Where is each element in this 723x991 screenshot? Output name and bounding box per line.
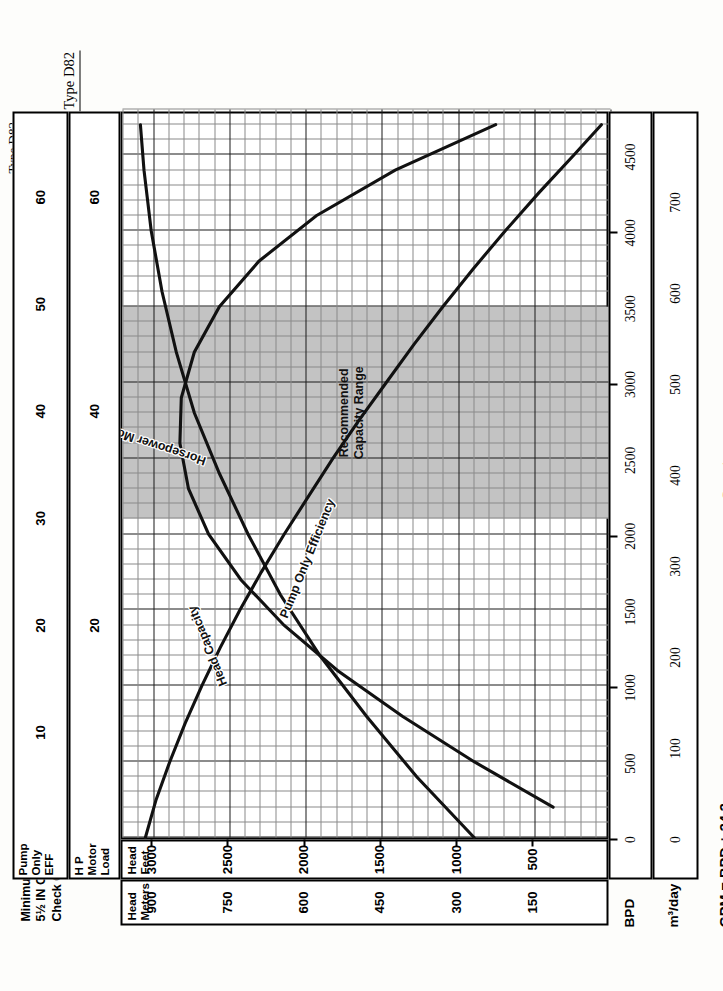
hp-motor-load-tick-60: 60 (87, 189, 102, 204)
bpd-tick-2000: 2000 (622, 522, 638, 549)
m3day-tick-300: 300 (667, 556, 683, 576)
hp-motor-load-tick-40: 40 (87, 403, 102, 418)
tick-mark (609, 838, 617, 840)
head-feet-tick-3000: 3000 (143, 844, 158, 873)
tick-mark (609, 686, 617, 688)
sheet-type-side: Type D82 (60, 50, 80, 111)
rotated-chart-stage: Minimum Casing Size 5½ IN OD Check Clear… (0, 0, 723, 991)
bpd-tick-0: 0 (622, 836, 638, 843)
hp-motor-load-panel (68, 111, 120, 879)
rcr-line1: Recommended (336, 366, 351, 459)
hp-motor-load-header-line1: H P (71, 843, 84, 875)
head-meters-tick-300: 300 (448, 891, 463, 913)
bpd-tick-2500: 2500 (622, 446, 638, 473)
m3day-tick-500: 500 (667, 374, 683, 394)
head-meters-header-line1: Head (124, 883, 137, 920)
pump-only-eff-header-line3: EFF (41, 843, 54, 875)
m3day-tick-600: 600 (667, 283, 683, 303)
head-meters-tick-900: 900 (143, 891, 158, 913)
pump-only-eff-tick-40: 40 (33, 403, 48, 418)
curve-layer (122, 109, 610, 837)
x-axis-primary-name: BPD (621, 898, 636, 927)
bpd-tick-4500: 4500 (622, 143, 638, 170)
head-feet-tick-1000: 1000 (448, 844, 463, 873)
tick-mark (531, 839, 533, 846)
m3day-tick-100: 100 (667, 738, 683, 758)
pump-only-eff-tick-10: 10 (33, 725, 48, 740)
pump-only-eff-header: PumpOnlyEFF (15, 843, 54, 875)
bpd-tick-500: 500 (622, 753, 638, 773)
head-feet-tick-1500: 1500 (372, 844, 387, 873)
head-meters-tick-150: 150 (524, 891, 539, 913)
bpd-tick-3000: 3000 (622, 370, 638, 397)
m3day-tick-200: 200 (667, 647, 683, 667)
pump-only-eff-header-line2: Only (28, 843, 41, 875)
pump-only-eff-panel (12, 111, 68, 879)
tick-mark (379, 839, 381, 846)
conversion-equation: GPM = BPD ÷ 34.3 (716, 803, 723, 927)
tick-mark (226, 839, 228, 846)
head-feet-tick-2500: 2500 (219, 844, 234, 873)
pump-only-eff-tick-60: 60 (33, 189, 48, 204)
m3day-axis-panel (652, 111, 698, 879)
head-feet-header-line1: Head (124, 846, 137, 874)
pump-only-eff-header-line1: Pump (15, 843, 28, 875)
x-axis-secondary-name: m³/day (665, 883, 680, 927)
bpd-tick-1000: 1000 (622, 674, 638, 701)
m3day-tick-0: 0 (667, 836, 683, 843)
tick-mark (609, 231, 617, 233)
m3day-tick-400: 400 (667, 465, 683, 485)
tick-mark (609, 535, 617, 537)
pump-only-efficiency-curve (179, 124, 552, 807)
head-meters-tick-750: 750 (219, 891, 234, 913)
hp-motor-load-tick-20: 20 (87, 618, 102, 633)
head-meters-tick-600: 600 (296, 891, 311, 913)
head-capacity-curve (145, 124, 601, 837)
tick-mark (303, 839, 305, 846)
head-feet-tick-2000: 2000 (296, 844, 311, 873)
head-feet-tick-500: 500 (524, 848, 539, 870)
performance-chart-plot-area: Head Capacity Pump Only Efficiency Horse… (120, 111, 608, 839)
tick-mark (609, 383, 617, 385)
bpd-tick-1500: 1500 (622, 598, 638, 625)
pump-only-eff-tick-30: 30 (33, 510, 48, 525)
head-meters-tick-450: 450 (372, 891, 387, 913)
pump-only-eff-tick-50: 50 (33, 296, 48, 311)
hp-motor-load-header-line3: Load (97, 843, 110, 875)
tick-mark (150, 839, 152, 846)
hp-motor-load-header-line2: Motor (84, 843, 97, 875)
recommended-capacity-range-label: Recommended Capacity Range (336, 366, 366, 459)
pump-only-eff-tick-20: 20 (33, 618, 48, 633)
hp-motor-load-header: H PMotorLoad (71, 843, 110, 875)
bpd-tick-3500: 3500 (622, 295, 638, 322)
bpd-tick-4000: 4000 (622, 219, 638, 246)
tick-mark (455, 839, 457, 846)
m3day-tick-700: 700 (667, 192, 683, 212)
rcr-line2: Capacity Range (351, 366, 366, 459)
